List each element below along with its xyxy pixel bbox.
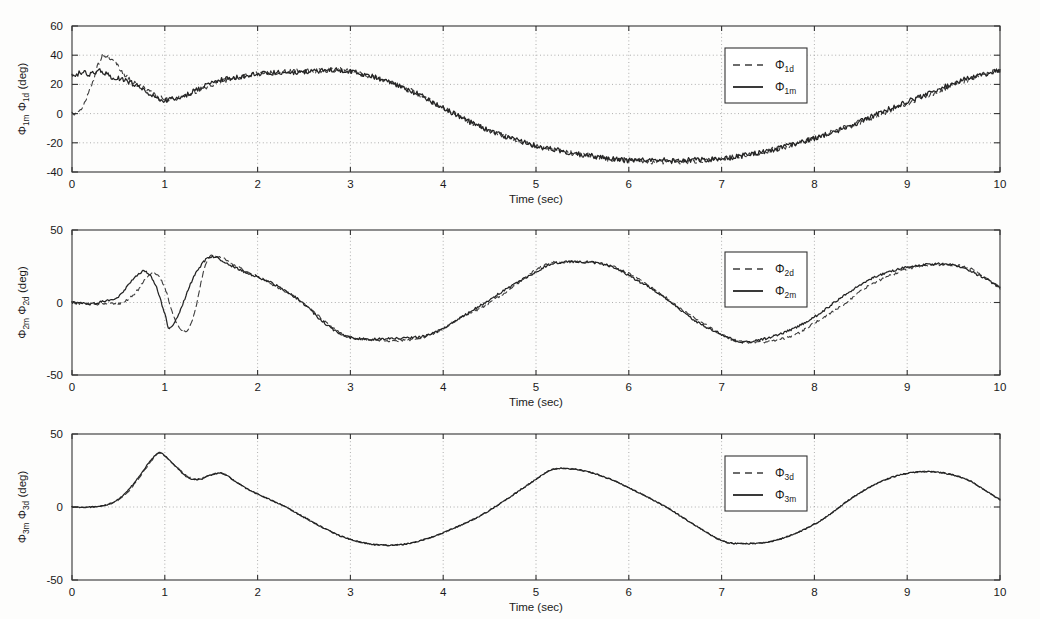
- x-tick-label: 3: [347, 586, 353, 598]
- x-tick-label: 9: [904, 586, 910, 598]
- x-tick-label: 2: [254, 381, 260, 393]
- x-tick-label: 1: [162, 381, 168, 393]
- x-tick-label: 2: [254, 586, 260, 598]
- y-tick-label: 0: [57, 108, 63, 120]
- x-tick-label: 8: [811, 586, 817, 598]
- x-tick-label: 3: [347, 178, 353, 190]
- plot-area-1: 0123456789106040200-20-40Time (sec)Φ1m Φ…: [16, 20, 1006, 205]
- x-tick-label: 8: [811, 178, 817, 190]
- x-tick-label: 6: [626, 178, 632, 190]
- x-tick-label: 5: [533, 178, 539, 190]
- plot-phi2: 012345678910500-50Time (sec)Φ2m Φ2d (deg…: [0, 205, 1040, 413]
- plot-area-2: 012345678910500-50Time (sec)Φ2m Φ2d (deg…: [16, 224, 1006, 408]
- y-tick-label: 50: [50, 224, 63, 236]
- x-tick-label: 8: [811, 381, 817, 393]
- x-tick-label: 6: [626, 586, 632, 598]
- y-tick-label: 0: [57, 501, 63, 513]
- subplot-phi2: 012345678910500-50Time (sec)Φ2m Φ2d (deg…: [0, 205, 1040, 413]
- x-tick-label: 9: [904, 178, 910, 190]
- x-tick-label: 4: [440, 178, 447, 190]
- x-tick-label: 10: [994, 586, 1007, 598]
- plot-phi3: 012345678910500-50Time (sec)Φ3m Φ3d (deg…: [0, 405, 1040, 619]
- x-tick-label: 4: [440, 586, 447, 598]
- x-tick-label: 9: [904, 381, 910, 393]
- x-tick-label: 5: [533, 586, 539, 598]
- figure-root: 0123456789106040200-20-40Time (sec)Φ1m Φ…: [0, 0, 1040, 619]
- x-tick-label: 7: [718, 178, 724, 190]
- y-tick-label: 20: [50, 78, 63, 90]
- x-tick-label: 5: [533, 381, 539, 393]
- x-tick-label: 3: [347, 381, 353, 393]
- y-tick-label: -50: [46, 369, 63, 381]
- y-tick-label: -40: [46, 166, 63, 178]
- plot-area-3: 012345678910500-50Time (sec)Φ3m Φ3d (deg…: [16, 428, 1006, 613]
- y-tick-label: 60: [50, 20, 63, 32]
- plot-phi1: 0123456789106040200-20-40Time (sec)Φ1m Φ…: [0, 0, 1040, 210]
- x-tick-label: 4: [440, 381, 447, 393]
- y-tick-label: -20: [46, 137, 63, 149]
- x-tick-label: 0: [69, 178, 75, 190]
- x-tick-label: 1: [162, 586, 168, 598]
- subplot-phi1: 0123456789106040200-20-40Time (sec)Φ1m Φ…: [0, 0, 1040, 210]
- x-axis-title: Time (sec): [509, 193, 563, 205]
- y-tick-label: -50: [46, 574, 63, 586]
- y-axis-title: Φ2m Φ2d (deg): [16, 266, 31, 339]
- y-tick-label: 50: [50, 428, 63, 440]
- x-tick-label: 10: [994, 381, 1007, 393]
- x-tick-label: 0: [69, 586, 75, 598]
- y-tick-label: 40: [50, 49, 63, 61]
- subplot-phi3: 012345678910500-50Time (sec)Φ3m Φ3d (deg…: [0, 405, 1040, 619]
- y-tick-label: 0: [57, 297, 63, 309]
- x-tick-label: 1: [162, 178, 168, 190]
- y-axis-title: Φ1m Φ1d (deg): [16, 63, 31, 136]
- x-axis-title: Time (sec): [509, 601, 563, 613]
- x-tick-label: 7: [718, 586, 724, 598]
- x-tick-label: 0: [69, 381, 75, 393]
- x-tick-label: 6: [626, 381, 632, 393]
- x-tick-label: 2: [254, 178, 260, 190]
- y-axis-title: Φ3m Φ3d (deg): [16, 471, 31, 544]
- x-tick-label: 10: [994, 178, 1007, 190]
- x-tick-label: 7: [718, 381, 724, 393]
